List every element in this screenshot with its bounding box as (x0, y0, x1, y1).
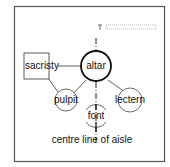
hatched-bar (98, 25, 156, 30)
font-label: font (88, 110, 105, 121)
lectern-label: lectern (115, 94, 145, 105)
church-layout-diagram: sacristy altar pulpit lectern font centr… (0, 0, 170, 167)
connector-sacristy-pulpit (48, 78, 58, 92)
sacristy-label: sacristy (25, 60, 59, 71)
pulpit-label: pulpit (54, 94, 78, 105)
centre-line-caption: centre line of aisle (52, 134, 133, 145)
altar-label: altar (86, 60, 106, 71)
